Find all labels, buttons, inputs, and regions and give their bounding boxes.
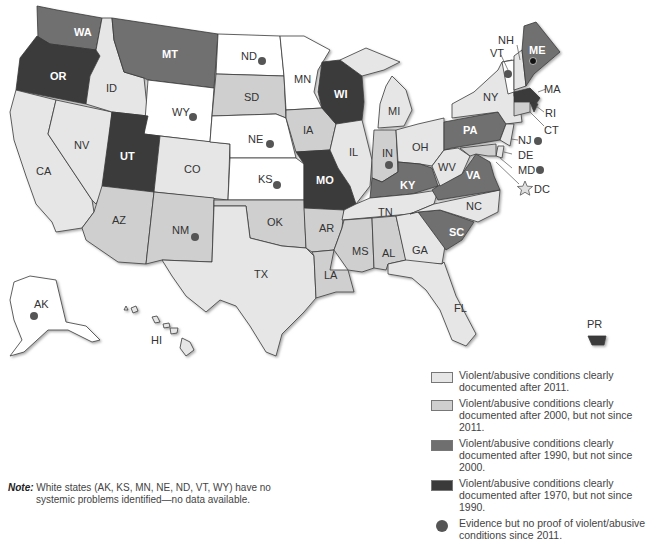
- label-KY: KY: [400, 179, 416, 191]
- label-MD: MD: [518, 164, 535, 176]
- label-CT: CT: [544, 124, 559, 136]
- label-DE: DE: [518, 149, 533, 161]
- dot-NE-icon: [266, 140, 274, 148]
- label-CO: CO: [184, 163, 201, 175]
- label-WI: WI: [334, 88, 347, 100]
- dot-NJ-icon: [534, 137, 542, 145]
- label-GA: GA: [412, 244, 429, 256]
- legend-item-after-2000: Violent/abusive conditions clearly docum…: [431, 397, 646, 433]
- label-WY: WY: [172, 106, 190, 118]
- state-AK: [10, 276, 100, 356]
- label-ID: ID: [106, 82, 117, 94]
- state-CT: [514, 102, 530, 116]
- territory-PR: [588, 336, 606, 345]
- legend: Violent/abusive conditions clearly docum…: [431, 369, 646, 543]
- label-CA: CA: [36, 165, 52, 177]
- label-ND: ND: [241, 50, 257, 62]
- label-HI: HI: [151, 334, 162, 346]
- label-PR: PR: [587, 318, 602, 330]
- legend-text: Violent/abusive conditions clearly docum…: [459, 397, 646, 433]
- label-LA: LA: [324, 269, 338, 281]
- label-NE: NE: [248, 133, 263, 145]
- dot-NM-icon: [191, 233, 199, 241]
- note-line-2: systemic problems identified—no data ava…: [8, 494, 298, 506]
- label-NC: NC: [466, 200, 482, 212]
- label-WV: WV: [438, 161, 456, 173]
- evidence-dot-icon: [436, 520, 448, 532]
- label-MA: MA: [544, 83, 561, 95]
- label-ME: ME: [529, 44, 546, 56]
- swatch-after-1970-icon: [431, 480, 453, 491]
- state-MI: [378, 76, 412, 128]
- state-DE: [496, 146, 504, 158]
- legend-item-after-2011: Violent/abusive conditions clearly docum…: [431, 369, 646, 393]
- label-SD: SD: [244, 91, 259, 103]
- label-PA: PA: [463, 124, 478, 136]
- dot-WY-icon: [189, 113, 197, 121]
- dot-KS-icon: [273, 181, 281, 189]
- label-NH: NH: [498, 34, 514, 46]
- label-TX: TX: [254, 268, 269, 280]
- label-RI: RI: [545, 107, 556, 119]
- note-label: Note:: [8, 482, 34, 493]
- legend-item-after-1990: Violent/abusive conditions clearly docum…: [431, 437, 646, 473]
- label-TN: TN: [378, 206, 393, 218]
- label-WA: WA: [74, 26, 92, 38]
- label-OR: OR: [50, 70, 67, 82]
- label-MS: MS: [352, 245, 369, 257]
- label-OK: OK: [267, 216, 284, 228]
- label-SC: SC: [449, 226, 464, 238]
- label-NV: NV: [74, 139, 90, 151]
- swatch-after-2011-icon: [431, 372, 453, 383]
- label-AZ: AZ: [112, 214, 126, 226]
- label-AL: AL: [382, 247, 395, 259]
- label-OH: OH: [412, 141, 429, 153]
- legend-text: Violent/abusive conditions clearly docum…: [459, 477, 646, 513]
- note-line-1: White states (AK, KS, MN, NE, ND, VT, WY…: [34, 482, 271, 493]
- label-UT: UT: [120, 150, 135, 162]
- label-KS: KS: [258, 173, 273, 185]
- label-IL: IL: [349, 146, 358, 158]
- label-NY: NY: [483, 91, 499, 103]
- label-IA: IA: [303, 124, 314, 136]
- dot-ME-icon: [530, 58, 537, 65]
- label-IN: IN: [382, 147, 393, 159]
- label-AR: AR: [319, 222, 334, 234]
- label-NM: NM: [172, 224, 189, 236]
- legend-text: Violent/abusive conditions clearly docum…: [459, 437, 646, 473]
- dc-star-icon: [517, 181, 532, 195]
- label-MO: MO: [316, 174, 334, 186]
- legend-item-evidence: Evidence but no proof of violent/abusive…: [431, 517, 646, 541]
- label-AK: AK: [34, 298, 49, 310]
- dot-IN-icon: [385, 161, 393, 169]
- label-NJ: NJ: [518, 134, 531, 146]
- swatch-after-1990-icon: [431, 440, 453, 451]
- label-DC: DC: [534, 183, 550, 195]
- swatch-after-2000-icon: [431, 400, 453, 411]
- dot-VT-icon: [504, 70, 512, 78]
- dot-AK-icon: [30, 312, 38, 320]
- label-MT: MT: [162, 48, 178, 60]
- footnote: Note: White states (AK, KS, MN, NE, ND, …: [8, 482, 298, 506]
- legend-text: Violent/abusive conditions clearly docum…: [459, 369, 646, 393]
- label-VT: VT: [490, 47, 504, 59]
- legend-text: Evidence but no proof of violent/abusive…: [459, 517, 646, 541]
- label-VA: VA: [466, 169, 481, 181]
- label-MN: MN: [294, 73, 311, 85]
- dot-ND-icon: [258, 57, 266, 65]
- state-HI: [124, 306, 194, 356]
- legend-item-after-1970: Violent/abusive conditions clearly docum…: [431, 477, 646, 513]
- label-MI: MI: [388, 105, 400, 117]
- label-FL: FL: [454, 302, 467, 314]
- dot-MD-icon: [536, 166, 544, 174]
